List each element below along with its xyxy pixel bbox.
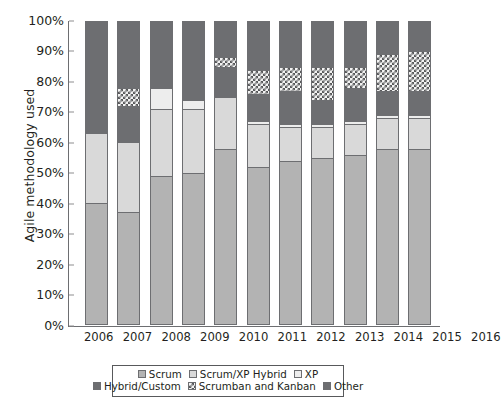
- bar-2008[interactable]: [150, 21, 173, 325]
- segment-hybrid-custom[interactable]: [376, 91, 399, 115]
- segment-hybrid-custom[interactable]: [150, 70, 173, 88]
- segment-scrum[interactable]: [214, 149, 237, 325]
- bar-2016[interactable]: [408, 21, 431, 325]
- legend-item-other[interactable]: Other: [323, 381, 363, 392]
- legend-item-hybrid-custom[interactable]: Hybrid/Custom: [93, 381, 181, 392]
- y-tick-mark: [69, 325, 74, 326]
- segment-scrum-xp-hybrid[interactable]: [376, 118, 399, 148]
- segment-hybrid-custom[interactable]: [214, 67, 237, 97]
- legend-item-scrumban-and-kanban[interactable]: Scrumban and Kanban: [188, 381, 316, 392]
- segment-scrumban-and-kanban[interactable]: [311, 67, 334, 100]
- bar-2014[interactable]: [344, 21, 367, 325]
- x-tick-label-2011: 2011: [278, 330, 308, 344]
- segment-other[interactable]: [247, 21, 270, 70]
- bar-2015[interactable]: [376, 21, 399, 325]
- y-tick-label: 80%: [36, 76, 64, 89]
- legend-row-2: Hybrid/CustomScrumban and KanbanOther: [118, 381, 338, 392]
- segment-xp[interactable]: [182, 100, 205, 109]
- bar-group: [70, 21, 440, 325]
- bar-2006[interactable]: [85, 21, 108, 325]
- segment-scrum[interactable]: [408, 149, 431, 325]
- segment-other[interactable]: [279, 21, 302, 67]
- x-tick-label-2014: 2014: [394, 330, 424, 344]
- segment-other[interactable]: [214, 21, 237, 57]
- segment-other[interactable]: [117, 21, 140, 88]
- segment-scrum-xp-hybrid[interactable]: [311, 127, 334, 157]
- segment-other[interactable]: [408, 21, 431, 51]
- segment-scrum[interactable]: [247, 167, 270, 325]
- y-tick-label: 0%: [44, 319, 64, 332]
- x-tick-label-2012: 2012: [316, 330, 346, 344]
- legend-item-scrum-xp-hybrid[interactable]: Scrum/XP Hybrid: [189, 369, 287, 380]
- x-tick-label-2007: 2007: [123, 330, 153, 344]
- segment-scrum-xp-hybrid[interactable]: [408, 118, 431, 148]
- segment-other[interactable]: [85, 21, 108, 91]
- segment-scrum[interactable]: [150, 176, 173, 325]
- segment-scrum-xp-hybrid[interactable]: [214, 97, 237, 149]
- segment-scrum-xp-hybrid[interactable]: [85, 133, 108, 203]
- bar-2009[interactable]: [182, 21, 205, 325]
- bar-2013[interactable]: [311, 21, 334, 325]
- segment-hybrid-custom[interactable]: [279, 91, 302, 124]
- segment-hybrid-custom[interactable]: [117, 106, 140, 142]
- swatch-xp-icon: [294, 370, 302, 378]
- segment-hybrid-custom[interactable]: [85, 91, 108, 134]
- segment-other[interactable]: [311, 21, 334, 67]
- segment-other[interactable]: [150, 21, 173, 70]
- y-tick-label: 60%: [36, 137, 64, 150]
- segment-hybrid-custom[interactable]: [247, 94, 270, 121]
- segment-hybrid-custom[interactable]: [344, 88, 367, 121]
- plot-area: 100%90%80%70%60%50%40%30%20%10%0%: [68, 21, 440, 327]
- segment-scrum-xp-hybrid[interactable]: [279, 127, 302, 160]
- legend-label: Other: [334, 381, 363, 392]
- segment-scrumban-and-kanban[interactable]: [279, 67, 302, 91]
- segment-scrum[interactable]: [376, 149, 399, 325]
- segment-scrumban-and-kanban[interactable]: [408, 51, 431, 90]
- segment-scrum[interactable]: [344, 155, 367, 325]
- x-tick-label-2013: 2013: [355, 330, 385, 344]
- legend-label: Scrumban and Kanban: [199, 381, 316, 392]
- segment-scrum[interactable]: [279, 161, 302, 325]
- bar-2007[interactable]: [117, 21, 140, 325]
- segment-scrum-xp-hybrid[interactable]: [182, 109, 205, 173]
- segment-hybrid-custom[interactable]: [408, 91, 431, 115]
- segment-scrum-xp-hybrid[interactable]: [117, 142, 140, 212]
- segment-xp[interactable]: [150, 88, 173, 109]
- x-tick-label-2016: 2016: [471, 330, 501, 344]
- bar-2012[interactable]: [279, 21, 302, 325]
- segment-scrum[interactable]: [117, 212, 140, 324]
- segment-hybrid-custom[interactable]: [182, 67, 205, 100]
- segment-scrumban-and-kanban[interactable]: [117, 88, 140, 106]
- segment-other[interactable]: [182, 21, 205, 67]
- x-tick-label-2015: 2015: [432, 330, 462, 344]
- segment-hybrid-custom[interactable]: [311, 100, 334, 124]
- segment-scrumban-and-kanban[interactable]: [214, 57, 237, 66]
- segment-scrum[interactable]: [85, 203, 108, 324]
- bar-2011[interactable]: [247, 21, 270, 325]
- segment-scrum-xp-hybrid[interactable]: [150, 109, 173, 176]
- segment-scrum[interactable]: [182, 173, 205, 325]
- segment-scrum-xp-hybrid[interactable]: [344, 124, 367, 154]
- y-tick-label: 40%: [36, 198, 64, 211]
- segment-scrumban-and-kanban[interactable]: [247, 70, 270, 94]
- swatch-scrumban-icon: [188, 382, 196, 390]
- swatch-hybrid-icon: [93, 382, 101, 390]
- y-tick-label: 10%: [36, 289, 64, 302]
- segment-scrumban-and-kanban[interactable]: [344, 67, 367, 88]
- segment-scrumban-and-kanban[interactable]: [376, 54, 399, 90]
- legend-item-xp[interactable]: XP: [294, 369, 318, 380]
- y-tick-label: 70%: [36, 106, 64, 119]
- legend-label: XP: [305, 369, 318, 380]
- swatch-scrum-icon: [138, 370, 146, 378]
- segment-scrum[interactable]: [311, 158, 334, 325]
- x-tick-label-2006: 2006: [84, 330, 114, 344]
- legend-item-scrum[interactable]: Scrum: [138, 369, 182, 380]
- segment-other[interactable]: [376, 21, 399, 54]
- y-axis-title: Agile methodology used: [22, 41, 37, 291]
- swatch-scrumxp-icon: [189, 370, 197, 378]
- segment-scrum-xp-hybrid[interactable]: [247, 124, 270, 167]
- segment-other[interactable]: [344, 21, 367, 67]
- y-tick-label: 20%: [36, 258, 64, 271]
- bar-2010[interactable]: [214, 21, 237, 325]
